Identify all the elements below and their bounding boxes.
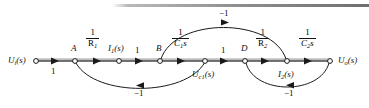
node-label-input: Ui(s) <box>8 56 26 65</box>
gain-numerator: 1 <box>172 28 189 37</box>
gain-label-i1-to-B: 1 <box>135 46 140 55</box>
gain-numerator: 1 <box>86 28 99 37</box>
figure-canvas: Ui(s) A I1(s) B Uc1(s) D I2(s) Uo(s) 1 1… <box>0 0 369 108</box>
feedback-arrowheads <box>136 19 294 88</box>
gain-denominator: C1s <box>172 39 189 48</box>
node-i2 <box>285 59 290 64</box>
gain-label-A-to-i1: 1 R1 <box>86 28 99 48</box>
gain-label-input-to-A: 1 <box>51 67 56 76</box>
gain-label-feedback-output-to-D: −1 <box>284 89 294 98</box>
arrowhead-feedback-i2-B <box>221 19 229 25</box>
node-input <box>34 59 39 64</box>
node-label-A: A <box>71 44 77 53</box>
node-A <box>73 59 78 64</box>
gain-label-B-to-uc1: 1 C1s <box>172 28 189 48</box>
node-label-B: B <box>156 44 162 53</box>
node-B <box>158 59 163 64</box>
node-label-i1: I1(s) <box>108 44 124 53</box>
gain-label-feedback-i2-to-B: −1 <box>219 9 229 18</box>
gain-label-uc1-to-D: 1 <box>221 46 226 55</box>
node-label-i2: I2(s) <box>278 70 294 79</box>
node-label-output: Uo(s) <box>338 56 357 65</box>
node-label-D: D <box>241 44 248 53</box>
gain-numerator: 1 <box>299 28 316 37</box>
node-i1 <box>117 59 122 64</box>
node-uc1 <box>203 59 208 64</box>
gain-label-D-to-i2: 1 R2 <box>256 28 269 48</box>
signal-flow-graph <box>0 0 369 108</box>
gain-denominator: R1 <box>86 39 99 48</box>
gain-numerator: 1 <box>256 28 269 37</box>
gain-label-i2-to-output: 1 C2s <box>299 28 316 48</box>
gain-denominator: R2 <box>256 39 269 48</box>
node-output <box>328 59 333 64</box>
node-label-uc1: Uc1(s) <box>192 70 214 79</box>
gain-denominator: C2s <box>299 39 316 48</box>
node-D <box>243 59 248 64</box>
gain-label-feedback-uc1-to-A: −1 <box>134 89 144 98</box>
